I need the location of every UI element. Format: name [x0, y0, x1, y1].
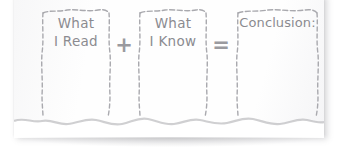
box-label-conclusion: Conclusion:	[235, 14, 320, 32]
box-conclusion[interactable]: Conclusion:	[235, 7, 320, 119]
graphic-organizer-worksheet: What I Read + What I Know =	[0, 0, 340, 151]
plus-sign-icon: +	[113, 34, 135, 56]
paper-sheet: What I Read + What I Know =	[14, 0, 324, 136]
box-what-i-read[interactable]: What I Read	[40, 7, 112, 119]
box-label-what-i-read: What I Read	[40, 14, 112, 50]
equals-sign-icon: =	[210, 34, 232, 56]
box-what-i-know[interactable]: What I Know	[137, 7, 209, 119]
box-label-what-i-know: What I Know	[137, 14, 209, 50]
paper-drop-shadow	[18, 137, 322, 147]
